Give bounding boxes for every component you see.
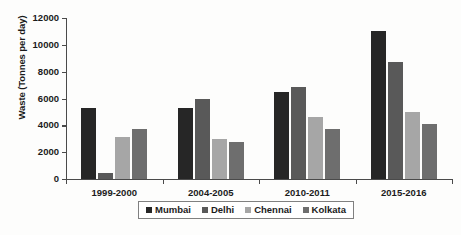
legend-label: Mumbai: [155, 204, 191, 215]
bar-mumbai: [81, 108, 96, 179]
bar-mumbai: [274, 92, 289, 179]
y-axis-tick-label: 8000: [38, 66, 59, 77]
legend-label: Kolkata: [312, 204, 346, 215]
legend-swatch-icon: [303, 207, 309, 213]
x-axis-tick-mark: [452, 179, 453, 184]
x-axis-category-label: 2015-2016: [381, 187, 426, 198]
y-axis-tick-label: 6000: [38, 93, 59, 104]
x-axis-category-label: 2010-2011: [285, 187, 330, 198]
bar-mumbai: [178, 108, 193, 179]
legend-item-kolkata[interactable]: Kolkata: [303, 204, 346, 215]
bar-delhi: [388, 62, 403, 179]
y-axis-tick-label: 2000: [38, 146, 59, 157]
x-axis-tick-mark: [163, 179, 164, 184]
bar-delhi: [291, 87, 306, 179]
legend-swatch-icon: [245, 207, 251, 213]
x-axis-tick-mark: [66, 179, 67, 184]
y-axis-tick-label: 0: [54, 173, 59, 184]
x-axis-category-label: 1999-2000: [92, 187, 137, 198]
bar-chennai: [405, 112, 420, 179]
bar-group: [163, 18, 260, 179]
bar-delhi: [98, 173, 113, 179]
plot-area: 020004000600080001000012000: [66, 18, 452, 179]
x-axis-tick-mark: [356, 179, 357, 184]
legend-item-delhi[interactable]: Delhi: [202, 204, 234, 215]
bar-delhi: [195, 99, 210, 179]
bar-kolkata: [325, 129, 340, 179]
legend-label: Delhi: [211, 204, 234, 215]
bar-chennai: [115, 137, 130, 179]
bar-kolkata: [132, 129, 147, 179]
bar-mumbai: [371, 31, 386, 179]
bar-group: [259, 18, 356, 179]
y-axis-title: Waste (Tonnes per day): [16, 0, 27, 143]
bar-kolkata: [229, 142, 244, 179]
bar-chart: Waste (Tonnes per day) 02000400060008000…: [0, 0, 461, 235]
bar-chennai: [212, 139, 227, 179]
y-axis-tick-label: 12000: [33, 12, 59, 23]
y-axis-tick-label: 10000: [33, 39, 59, 50]
bar-chennai: [308, 117, 323, 179]
bar-group: [356, 18, 453, 179]
y-axis-tick-label: 4000: [38, 119, 59, 130]
legend-swatch-icon: [202, 207, 208, 213]
chart-legend: MumbaiDelhiChennaiKolkata: [138, 201, 354, 219]
legend-swatch-icon: [146, 207, 152, 213]
legend-label: Chennai: [254, 204, 291, 215]
legend-item-chennai[interactable]: Chennai: [245, 204, 291, 215]
x-axis-tick-mark: [259, 179, 260, 184]
bar-group: [66, 18, 163, 179]
x-axis-category-label: 2004-2005: [188, 187, 233, 198]
bar-kolkata: [422, 124, 437, 179]
legend-item-mumbai[interactable]: Mumbai: [146, 204, 191, 215]
